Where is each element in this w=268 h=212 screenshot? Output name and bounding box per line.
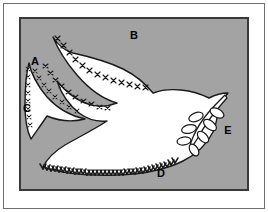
label-e: E: [224, 124, 231, 136]
figure-panel: A B C D E: [19, 17, 249, 191]
dove-diagram: A B C D E: [21, 19, 247, 189]
label-b: B: [130, 29, 138, 41]
screenshot-root: A B C D E: [0, 0, 268, 212]
label-c: C: [23, 102, 31, 114]
dove-silhouette: [43, 37, 228, 175]
label-d: D: [157, 167, 165, 179]
label-a: A: [31, 55, 39, 67]
dove-body-path: [43, 37, 228, 175]
